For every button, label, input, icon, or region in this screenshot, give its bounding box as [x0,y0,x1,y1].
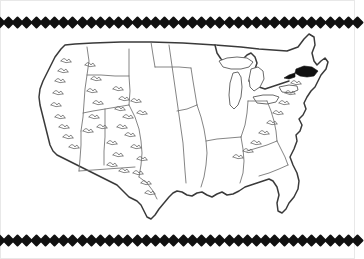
map-illustration [1,31,356,233]
diamond-motif [351,234,364,247]
lake-superior [219,57,253,69]
diamond-border-top [1,14,356,30]
usa-coastline-outline [39,34,328,219]
diamond-motif [351,16,364,29]
usa-map-svg [1,31,356,233]
diamond-border-bottom [1,232,356,248]
lake-erie [253,95,279,104]
